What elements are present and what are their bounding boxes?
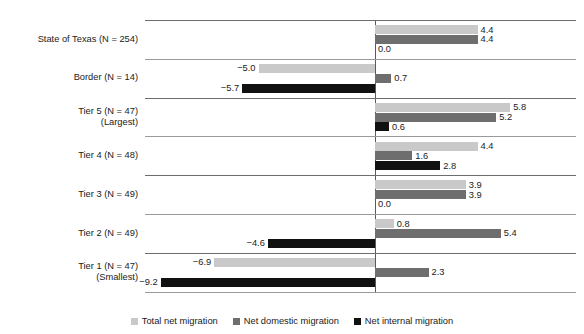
legend-swatch-icon [131,318,138,325]
bar-value-label: 5.2 [499,113,512,122]
migration-bar-chart: State of Texas (N = 254)Border (N = 14)T… [0,0,584,334]
bar [375,190,466,199]
bar-value-label: 2.3 [432,268,445,277]
bar-value-label: −5.0 [237,64,255,73]
bar [375,74,391,83]
bar [375,122,389,131]
bar [161,278,375,287]
bar-value-label: 0.8 [397,220,410,229]
category-label: State of Texas (N = 254) [38,34,138,46]
category-label: Tier 1 (N = 47)(Smallest) [78,261,138,284]
group-separator [145,253,576,254]
category-label: Tier 4 (N = 48) [78,150,138,162]
legend-label: Net domestic migration [244,316,339,326]
legend-item: Net internal migration [354,316,453,326]
bar [375,151,412,160]
category-label-line: Tier 5 (N = 47) [78,106,138,118]
bar-value-label: 0.0 [378,200,391,209]
bar-value-label: −6.9 [193,258,211,267]
category-label-line: (Smallest) [78,272,138,284]
legend-item: Total net migration [131,316,218,326]
legend-label: Total net migration [142,316,218,326]
bar [259,64,376,73]
category-label-line: Tier 4 (N = 48) [78,150,138,162]
bar-value-label: 2.8 [443,162,456,171]
bar-value-label: 4.4 [481,26,494,35]
bar [375,161,440,170]
category-label: Tier 2 (N = 49) [78,228,138,240]
bar [375,229,501,238]
bar-value-label: 3.9 [469,181,482,190]
category-label-line: Tier 3 (N = 49) [78,189,138,201]
category-label: Tier 5 (N = 47)(Largest) [78,106,138,129]
bar-value-label: 0.6 [392,123,405,132]
chart-legend: Total net migrationNet domestic migratio… [0,316,584,326]
bar-value-label: 4.4 [481,35,494,44]
bar-value-label: 5.4 [504,229,517,238]
plot-area: 4.44.40.0−5.00.7−5.75.85.20.64.41.62.83.… [145,0,584,334]
group-separator [145,175,576,176]
bar [375,35,478,44]
group-separator [145,98,576,99]
bar [375,180,466,189]
bar [375,219,394,228]
bar [375,103,510,112]
bar-value-label: 3.9 [469,191,482,200]
category-label: Border (N = 14) [74,72,138,84]
bar-value-label: −9.2 [139,278,157,287]
bar-value-label: 0.0 [378,45,391,54]
legend-swatch-icon [354,318,361,325]
category-label-line: Tier 2 (N = 49) [78,228,138,240]
bar [375,142,478,151]
category-label-column: State of Texas (N = 254)Border (N = 14)T… [0,0,138,334]
legend-swatch-icon [233,318,240,325]
bar-value-label: 5.8 [513,103,526,112]
legend-label: Net internal migration [365,316,453,326]
group-separator [145,20,576,21]
group-separator [145,136,576,137]
bar [375,25,478,34]
bar [242,84,375,93]
group-separator [145,59,576,60]
category-label-line: State of Texas (N = 254) [38,34,138,46]
category-label-line: Border (N = 14) [74,72,138,84]
bar-value-label: −5.7 [221,84,239,93]
category-label-line: (Largest) [78,117,138,129]
bar-value-label: 1.6 [415,152,428,161]
category-label-line: Tier 1 (N = 47) [78,261,138,273]
bar-value-label: −4.6 [246,239,264,248]
bar [375,268,429,277]
bar [214,258,375,267]
group-separator [145,292,576,293]
group-separator [145,214,576,215]
bar [268,239,375,248]
bar [375,113,496,122]
category-label: Tier 3 (N = 49) [78,189,138,201]
legend-item: Net domestic migration [233,316,339,326]
bar-value-label: 4.4 [481,142,494,151]
bar-value-label: 0.7 [394,74,407,83]
